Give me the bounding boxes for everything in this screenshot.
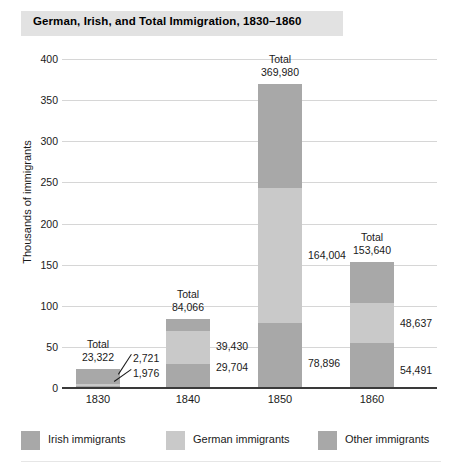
bar-segment-german[interactable]: [350, 303, 394, 343]
x-axis-line: [62, 387, 437, 389]
x-tick-label: 1840: [153, 393, 223, 405]
bar-segment-irish[interactable]: [350, 343, 394, 388]
y-tick-label: 50: [18, 341, 58, 353]
total-word-label: Total: [143, 288, 233, 300]
y-tick-label: 400: [18, 53, 58, 65]
legend-swatch: [318, 431, 337, 450]
legend-label: Irish immigrants: [48, 433, 126, 445]
bar-segment-other[interactable]: [350, 262, 394, 304]
irish-value-label: 54,491: [400, 364, 432, 376]
bar-column[interactable]: [258, 59, 302, 388]
german-value-label: 164,004: [308, 249, 346, 261]
legend-label: German immigrants: [193, 433, 290, 445]
bar-segment-other[interactable]: [166, 319, 210, 331]
y-tick-label: 250: [18, 176, 58, 188]
total-value-label: 84,066: [143, 301, 233, 313]
footer-divider: [21, 461, 441, 462]
y-tick-label: 200: [18, 218, 58, 230]
bar-segment-german[interactable]: [258, 188, 302, 323]
total-word-label: Total: [327, 231, 417, 243]
german-value-label: 39,430: [216, 340, 248, 352]
irish-value-label: 29,704: [216, 361, 248, 373]
bar-segment-irish[interactable]: [166, 364, 210, 388]
german-value-label: 2,721: [133, 352, 159, 364]
y-tick-label: 150: [18, 259, 58, 271]
x-tick-label: 1860: [337, 393, 407, 405]
total-word-label: Total: [235, 53, 325, 65]
x-tick-label: 1830: [63, 393, 133, 405]
y-tick-label: 0: [18, 382, 58, 394]
x-tick-label: 1850: [245, 393, 315, 405]
bar-column[interactable]: [166, 59, 210, 388]
irish-value-label: 78,896: [308, 357, 340, 369]
irish-value-label: 1,976: [133, 367, 159, 379]
chart-legend: Irish immigrantsGerman immigrantsOther i…: [21, 430, 441, 454]
y-tick-label: 300: [18, 135, 58, 147]
y-tick-label: 100: [18, 300, 58, 312]
total-value-label: 369,980: [235, 66, 325, 78]
bar-segment-german[interactable]: [166, 331, 210, 363]
legend-swatch: [21, 431, 40, 450]
german-value-label: 48,637: [400, 317, 432, 329]
chart-figure: German, Irish, and Total Immigration, 18…: [0, 0, 461, 472]
y-axis-ticks: 400350300250200150100500: [12, 59, 58, 388]
legend-label: Other immigrants: [345, 433, 429, 445]
total-word-label: Total: [53, 338, 143, 350]
bar-column[interactable]: [350, 59, 394, 388]
legend-swatch: [166, 431, 185, 450]
y-tick-label: 350: [18, 94, 58, 106]
bar-segment-other[interactable]: [76, 369, 120, 384]
bar-segment-other[interactable]: [258, 84, 302, 189]
chart-title: German, Irish, and Total Immigration, 18…: [33, 15, 301, 27]
bar-segment-irish[interactable]: [258, 323, 302, 388]
